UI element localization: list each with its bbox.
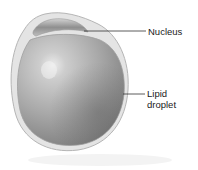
droplet-highlight	[41, 61, 57, 79]
adipocyte-diagram: Nucleus Lipid droplet	[0, 0, 198, 170]
lipid-droplet-label: Lipid droplet	[147, 88, 176, 110]
nucleus-label: Nucleus	[148, 26, 182, 37]
reflection-shadow	[28, 154, 172, 166]
droplet-shading	[17, 34, 124, 145]
